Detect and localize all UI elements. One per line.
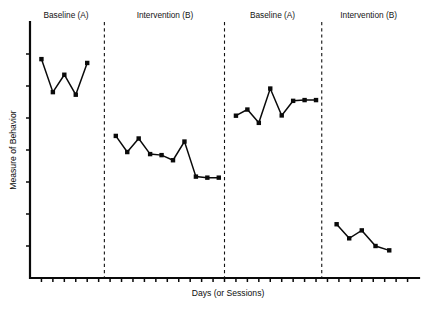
- data-point-marker: [194, 174, 198, 178]
- data-point-marker: [302, 98, 306, 102]
- data-point-marker: [360, 228, 364, 232]
- data-point-marker: [125, 150, 129, 154]
- data-point-marker: [114, 134, 118, 138]
- data-point-marker: [280, 113, 284, 117]
- data-point-marker: [136, 136, 140, 140]
- y-axis-title: Measure of Behavior: [8, 110, 18, 189]
- data-point-marker: [334, 222, 338, 226]
- data-point-marker: [62, 73, 66, 77]
- data-point-marker: [268, 86, 272, 90]
- chart-background: [0, 0, 427, 309]
- data-point-marker: [373, 244, 377, 248]
- data-point-marker: [171, 158, 175, 162]
- data-point-marker: [257, 121, 261, 125]
- single-case-design-chart: Baseline (A)Intervention (B)Baseline (A)…: [0, 0, 427, 309]
- data-point-marker: [314, 98, 318, 102]
- phase-label-4: Intervention (B): [340, 10, 397, 20]
- data-point-marker: [74, 93, 78, 97]
- data-point-marker: [85, 61, 89, 65]
- data-point-marker: [291, 99, 295, 103]
- data-point-marker: [387, 248, 391, 252]
- data-point-marker: [39, 57, 43, 61]
- data-point-marker: [159, 153, 163, 157]
- data-point-marker: [217, 175, 221, 179]
- data-point-marker: [245, 107, 249, 111]
- data-point-marker: [148, 152, 152, 156]
- phase-label-3: Baseline (A): [250, 10, 295, 20]
- data-point-marker: [205, 175, 209, 179]
- data-point-marker: [347, 236, 351, 240]
- x-axis-title: Days (or Sessions): [192, 288, 265, 298]
- phase-label-1: Baseline (A): [43, 10, 88, 20]
- data-point-marker: [234, 114, 238, 118]
- phase-label-2: Intervention (B): [137, 10, 194, 20]
- data-point-marker: [51, 90, 55, 94]
- data-point-marker: [182, 139, 186, 143]
